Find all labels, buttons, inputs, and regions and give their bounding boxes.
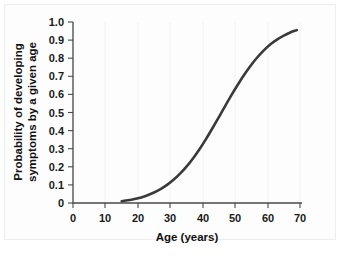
y-axis-title-line2: symptoms by a given age <box>26 42 38 182</box>
y-axis-title-line1: Probability of developing <box>12 43 24 180</box>
y-tick-label: 0.6 <box>49 88 64 100</box>
x-tick-label: 40 <box>197 212 209 224</box>
x-tick-label: 60 <box>262 212 274 224</box>
x-tick-labels: 0 10 20 30 40 50 60 70 <box>70 212 306 224</box>
x-tick-label: 70 <box>294 212 306 224</box>
x-tick-label: 0 <box>70 212 76 224</box>
x-axis-ticks <box>73 203 300 208</box>
x-tick-label: 30 <box>164 212 176 224</box>
y-axis-ticks <box>68 22 73 203</box>
y-tick-label: 0.1 <box>49 179 64 191</box>
x-axis-title: Age (years) <box>156 231 219 243</box>
chart-plot-area: 1.0 0.9 0.8 0.7 0.6 0.5 0.4 0.3 0.2 0.1 … <box>0 0 340 260</box>
probability-curve <box>122 30 297 201</box>
y-tick-label: 0.2 <box>49 161 64 173</box>
y-tick-label: 0.9 <box>49 34 64 46</box>
y-tick-label: 0.4 <box>49 125 65 137</box>
x-tick-label: 20 <box>132 212 144 224</box>
y-tick-label: 0 <box>58 197 64 209</box>
x-tick-label: 10 <box>99 212 111 224</box>
y-tick-label: 0.8 <box>49 52 64 64</box>
y-tick-label: 0.7 <box>49 70 64 82</box>
y-tick-label: 1.0 <box>49 16 64 28</box>
x-tick-label: 50 <box>229 212 241 224</box>
y-tick-label: 0.3 <box>49 143 64 155</box>
y-tick-labels: 1.0 0.9 0.8 0.7 0.6 0.5 0.4 0.3 0.2 0.1 … <box>49 16 65 209</box>
y-tick-label: 0.5 <box>49 107 64 119</box>
chart-figure: 1.0 0.9 0.8 0.7 0.6 0.5 0.4 0.3 0.2 0.1 … <box>0 0 340 260</box>
